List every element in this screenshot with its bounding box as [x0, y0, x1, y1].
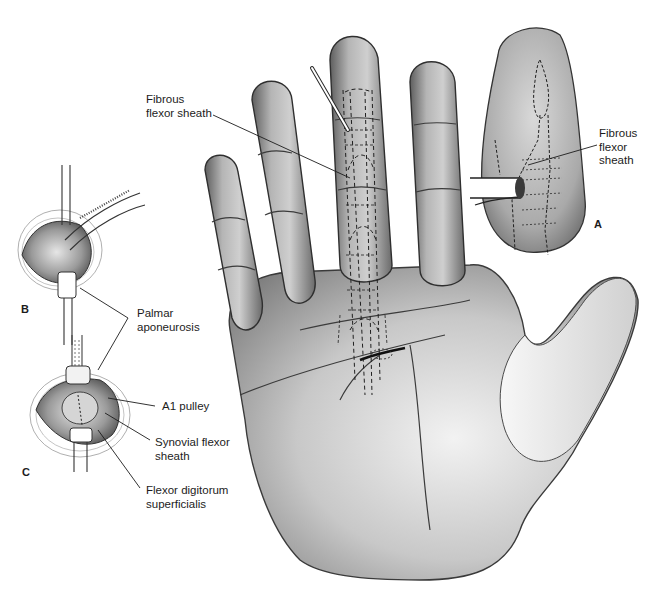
label-fibrous-flexor-sheath-main: Fibrous flexor sheath	[146, 93, 212, 120]
panel-letter-c: C	[22, 466, 30, 478]
panel-letter-a: A	[594, 218, 602, 230]
label-synovial-flexor-sheath: Synovial flexor sheath	[155, 436, 230, 463]
label-palmar-aponeurosis: Palmar aponeurosis	[137, 307, 200, 334]
inset-b-wound	[18, 165, 145, 345]
label-fibrous-flexor-sheath-inset: Fibrous flexor sheath	[599, 127, 637, 168]
illustration-artwork	[0, 0, 658, 590]
label-flexor-digitorum-superficialis: Flexor digitorum superficialis	[146, 484, 228, 511]
panel-letter-b: B	[21, 303, 29, 315]
inset-c-wound	[30, 335, 130, 472]
inset-a-finger	[470, 28, 585, 255]
label-a1-pulley: A1 pulley	[162, 400, 209, 414]
hand-surgery-illustration: Fibrous flexor sheath Fibrous flexor she…	[0, 0, 658, 590]
